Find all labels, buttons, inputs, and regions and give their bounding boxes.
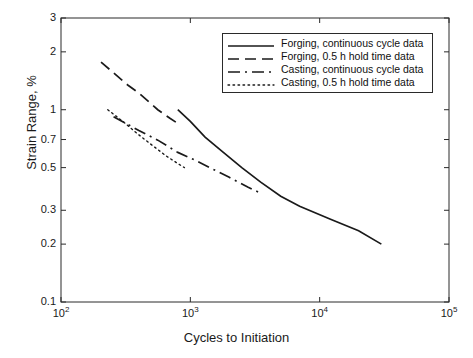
legend-item-label: Casting, continuous cycle data (281, 63, 423, 76)
figure-chart-strain-range-vs-cycles: 0.10.20.30.50.7123 102103104105 Cycles t… (0, 0, 473, 358)
x-tick-label: 105 (419, 307, 473, 319)
x-tick-label: 103 (160, 307, 220, 319)
y-axis-title: Strain Range, % (24, 43, 39, 203)
legend-line-sample-icon (227, 64, 275, 76)
x-tick-label: 104 (290, 307, 350, 319)
legend-item-label: Casting, 0.5 h hold time data (281, 76, 415, 89)
x-tick-label: 102 (31, 307, 91, 319)
y-tick-label: 0.1 (6, 295, 56, 307)
legend-item[interactable]: Casting, 0.5 h hold time data (227, 76, 428, 89)
legend-item-label: Forging, continuous cycle data (281, 37, 423, 50)
legend-item[interactable]: Casting, continuous cycle data (227, 63, 428, 76)
y-tick-label: 0.3 (6, 203, 56, 215)
x-axis-title: Cycles to Initiation (0, 330, 473, 345)
legend-item-label: Forging, 0.5 h hold time data (281, 50, 415, 63)
legend-line-sample-icon (227, 51, 275, 63)
legend-item[interactable]: Forging, continuous cycle data (227, 37, 428, 50)
legend-line-sample-icon (227, 77, 275, 89)
legend-line-sample-icon (227, 38, 275, 50)
y-tick-label: 3 (6, 11, 56, 23)
legend-item[interactable]: Forging, 0.5 h hold time data (227, 50, 428, 63)
legend-box: Forging, continuous cycle dataForging, 0… (222, 33, 433, 93)
y-tick-label: 0.2 (6, 237, 56, 249)
